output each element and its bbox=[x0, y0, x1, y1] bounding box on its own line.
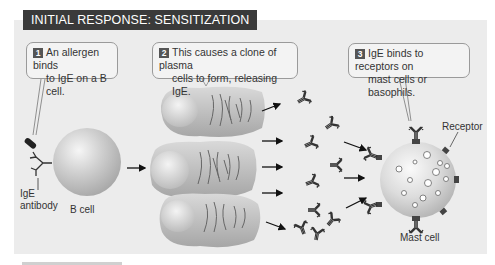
step-2-line2: cells to form, releasing IgE. bbox=[159, 72, 291, 98]
step-1-callout: 1An allergen binds to IgE on a B cell. bbox=[26, 42, 118, 79]
step-1-number: 1 bbox=[33, 48, 43, 58]
diagram-artwork bbox=[0, 0, 495, 265]
step-1-line2: to IgE on a B cell. bbox=[33, 72, 111, 98]
step-3-line1: IgE binds to receptors on bbox=[355, 47, 423, 72]
step-2-line1: This causes a clone of plasma bbox=[159, 46, 276, 71]
receptor-pointer bbox=[450, 132, 458, 147]
receptor-label: Receptor bbox=[442, 121, 483, 133]
plasma-cell-middle bbox=[150, 141, 256, 198]
plasma-cell-bottom bbox=[160, 194, 261, 248]
step-3-callout: 3IgE binds to receptors on mast cells or… bbox=[348, 43, 470, 78]
section-title: INITIAL RESPONSE: SENSITIZATION bbox=[23, 10, 257, 30]
step-2-callout: 2This causes a clone of plasma cells to … bbox=[152, 42, 298, 79]
ige-label-line2: antibody bbox=[20, 200, 58, 212]
mast-cell-label: Mast cell bbox=[400, 232, 439, 244]
allergen-icon bbox=[23, 137, 37, 150]
free-ige-antibodies bbox=[293, 90, 342, 241]
step-2-number: 2 bbox=[159, 48, 169, 58]
ige-antibody-label: IgE antibody bbox=[20, 188, 58, 212]
step-3-line2: mast cells or basophils. bbox=[355, 73, 463, 99]
release-arrows bbox=[262, 104, 285, 229]
ige-antibody-icon bbox=[30, 152, 52, 190]
binding-arrows bbox=[344, 142, 366, 208]
step-3-number: 3 bbox=[355, 49, 365, 59]
b-cell bbox=[53, 128, 121, 196]
b-cell-label: B cell bbox=[70, 204, 94, 216]
ige-label-line1: IgE bbox=[20, 188, 58, 200]
